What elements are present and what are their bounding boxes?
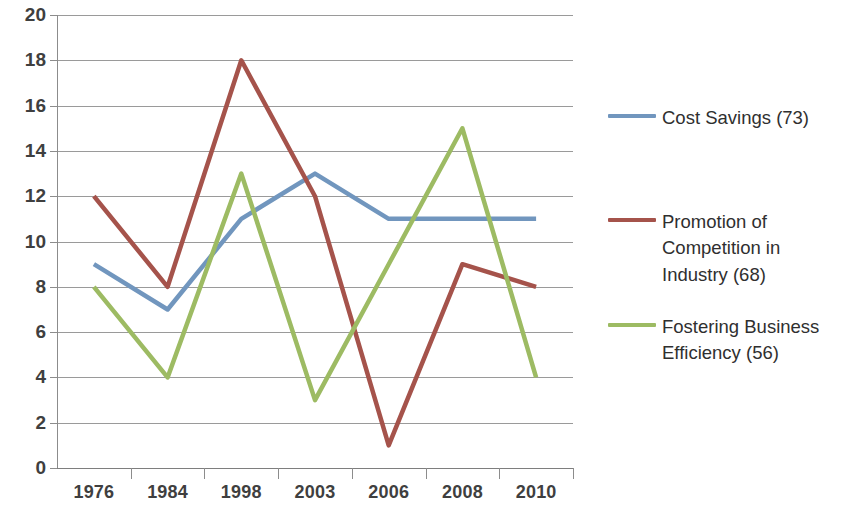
y-axis-tick (50, 15, 57, 16)
series-lines (57, 15, 573, 468)
legend-entry[interactable]: Fostering Business Efficiency (56) (608, 314, 844, 367)
y-axis-tick (50, 468, 57, 469)
x-axis-tick (426, 468, 427, 479)
y-axis-label: 0 (0, 458, 46, 477)
y-axis-label: 2 (0, 413, 46, 432)
x-axis-tick (204, 468, 205, 479)
y-axis-label: 8 (0, 277, 46, 296)
series-line (94, 60, 536, 445)
line-chart: 02468101214161820 1976198419982003200620… (0, 0, 844, 512)
y-axis-label: 16 (0, 96, 46, 115)
y-axis-label: 6 (0, 322, 46, 341)
y-axis-label: 20 (0, 5, 46, 24)
x-axis-tick (352, 468, 353, 479)
x-axis-label: 2008 (422, 482, 502, 503)
y-axis-label: 12 (0, 186, 46, 205)
y-axis-tick (50, 196, 57, 197)
legend-label: Fostering Business Efficiency (56) (662, 314, 844, 367)
x-axis-label: 1998 (201, 482, 281, 503)
x-axis-tick (573, 468, 574, 479)
y-axis-tick (50, 106, 57, 107)
x-axis-label: 1976 (54, 482, 134, 503)
y-axis-tick (50, 287, 57, 288)
y-axis-label: 4 (0, 367, 46, 386)
x-axis-label: 2006 (349, 482, 429, 503)
legend-entry[interactable]: Promotion of Competition in Industry (68… (608, 209, 844, 288)
x-axis-tick (131, 468, 132, 479)
y-axis-label: 14 (0, 141, 46, 160)
y-axis-tick (50, 151, 57, 152)
gridline (57, 468, 573, 469)
plot-area (57, 15, 573, 468)
y-axis-label: 10 (0, 232, 46, 251)
y-axis-tick (50, 242, 57, 243)
y-axis-tick (50, 377, 57, 378)
x-axis-tick (499, 468, 500, 479)
legend-color-swatch (608, 114, 656, 118)
legend-label: Promotion of Competition in Industry (68… (662, 209, 844, 288)
y-axis-tick (50, 332, 57, 333)
legend-entry[interactable]: Cost Savings (73) (608, 105, 809, 131)
x-axis-label: 2003 (275, 482, 355, 503)
x-axis-label: 2010 (496, 482, 576, 503)
x-axis-label: 1984 (128, 482, 208, 503)
x-axis-tick (278, 468, 279, 479)
y-axis-label: 18 (0, 50, 46, 69)
legend-label: Cost Savings (73) (662, 105, 809, 131)
legend-color-swatch (608, 323, 656, 327)
legend-color-swatch (608, 218, 656, 222)
y-axis-tick (50, 423, 57, 424)
y-axis-tick (50, 60, 57, 61)
